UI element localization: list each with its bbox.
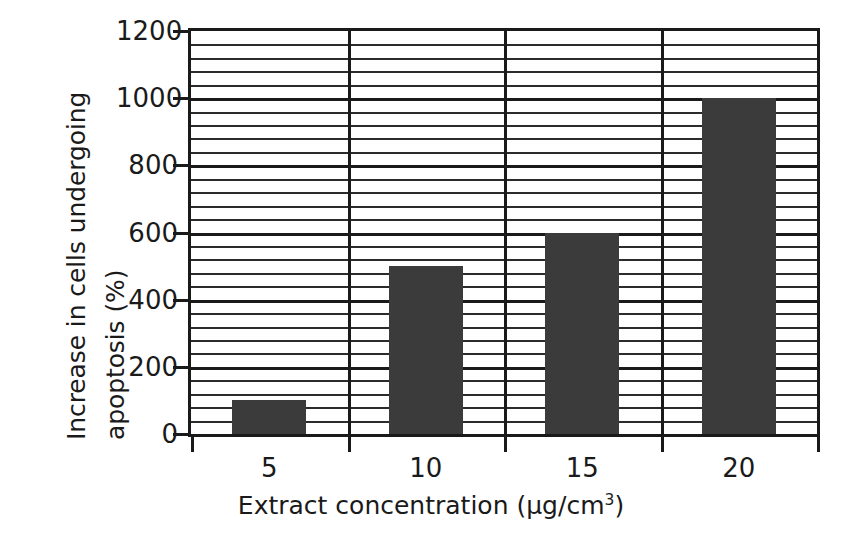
bar xyxy=(545,233,619,435)
y-axis-tick-mark xyxy=(173,30,188,33)
y-axis-tick-label: 1200 xyxy=(116,18,178,44)
y-axis-tick-mark xyxy=(173,366,188,369)
y-axis-tick-label: 200 xyxy=(116,354,178,380)
y-axis-tick-mark xyxy=(173,232,188,235)
x-axis-tick-mark xyxy=(348,437,351,452)
bar xyxy=(389,266,463,434)
bar xyxy=(702,98,776,434)
y-axis-tick-labels: 020040060080010001200 xyxy=(116,0,178,534)
bar-chart: Increase in cells undergoing apoptosis (… xyxy=(0,0,862,534)
x-axis-tick-mark xyxy=(504,437,507,452)
y-axis-tick-label: 400 xyxy=(116,287,178,313)
y-axis-tick-label: 800 xyxy=(116,152,178,178)
x-axis-title-superscript: 3 xyxy=(605,491,615,509)
bar xyxy=(232,400,306,434)
x-axis-tick-mark xyxy=(817,437,820,452)
x-axis-tick-labels: 5101520 xyxy=(188,455,820,491)
y-axis-tick-mark xyxy=(173,433,188,436)
plot-area xyxy=(188,28,820,437)
x-axis-title-main: Extract concentration (µg/cm xyxy=(238,491,605,520)
x-axis-tick-mark xyxy=(191,437,194,452)
x-axis-tick-mark xyxy=(661,437,664,452)
x-axis-title-tail: ) xyxy=(614,491,624,520)
y-axis-title-line-1: Increase in cells undergoing xyxy=(62,92,92,440)
y-axis-tick-label: 600 xyxy=(116,220,178,246)
category-separator xyxy=(661,31,664,434)
y-axis-tick-label: 1000 xyxy=(116,85,178,111)
x-axis-tick-label: 10 xyxy=(409,455,442,481)
y-axis-tick-mark xyxy=(173,299,188,302)
x-axis-tick-label: 15 xyxy=(566,455,599,481)
category-separator xyxy=(504,31,507,434)
x-axis-tick-label: 5 xyxy=(261,455,278,481)
y-axis-tick-label: 0 xyxy=(116,421,178,447)
x-axis-title: Extract concentration (µg/cm3) xyxy=(0,493,862,518)
y-axis-tick-mark xyxy=(173,164,188,167)
category-separator xyxy=(348,31,351,434)
y-axis-tick-mark xyxy=(173,97,188,100)
x-axis-tick-label: 20 xyxy=(722,455,755,481)
